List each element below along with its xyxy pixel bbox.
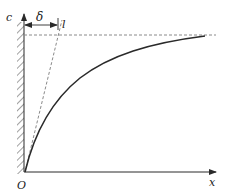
wall-hatching xyxy=(17,22,24,174)
origin-label: O xyxy=(17,179,26,192)
concentration-curve xyxy=(25,36,205,172)
delta-label: δ xyxy=(36,10,43,24)
tangent-marker-label: l xyxy=(62,18,66,31)
diagram-canvas: c δ l O x xyxy=(0,0,230,195)
tangent-line xyxy=(25,20,62,172)
y-axis-label: c xyxy=(6,11,12,24)
x-axis-label: x xyxy=(209,176,216,189)
